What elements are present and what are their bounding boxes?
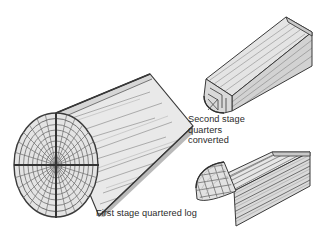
first-stage-quartered-log	[13, 74, 193, 218]
log-end-grain	[13, 112, 99, 218]
battens-far-end	[272, 152, 310, 156]
log-conversion-stages-diagram: Second stage quarters converted First st…	[0, 0, 322, 245]
caption-second-stage-quarters-converted: Second stage quarters converted	[188, 114, 245, 146]
quarter-sawn-into-battens	[190, 152, 310, 226]
caption-first-stage-quartered-log: First stage quartered log	[96, 208, 197, 219]
second-stage-quarter-converted	[204, 17, 312, 113]
